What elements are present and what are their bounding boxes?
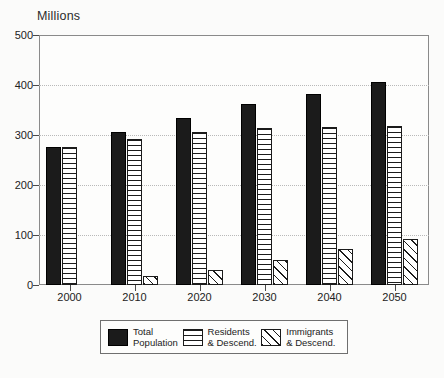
bar-group xyxy=(306,35,353,285)
bar-residents-descend xyxy=(192,132,207,285)
x-tick-mark xyxy=(330,285,331,291)
bar-immigrants-descend xyxy=(208,270,223,285)
legend-item-residents: Residents & Descend. xyxy=(183,326,262,348)
bars-layer xyxy=(39,35,429,285)
bar-total-population xyxy=(176,118,191,285)
y-tick-label: 0 xyxy=(3,279,33,291)
x-tick-label: 2040 xyxy=(317,291,341,303)
diagonal-hatch-swatch-icon xyxy=(261,329,281,346)
bar-residents-descend xyxy=(127,139,142,285)
legend-item-immigrants: Immigrants & Descend. xyxy=(261,326,340,348)
bar-residents-descend xyxy=(387,126,402,285)
bar-immigrants-descend xyxy=(403,239,418,285)
x-tick-mark xyxy=(265,285,266,291)
y-tick-label: 200 xyxy=(3,179,33,191)
legend-item-label: Residents & Descend. xyxy=(208,326,257,348)
y-tick-label: 100 xyxy=(3,229,33,241)
y-axis-unit-title: Millions xyxy=(37,9,80,23)
horizontal-stripes-swatch-icon xyxy=(183,329,203,346)
y-axis: 0100200300400500 xyxy=(0,0,33,378)
bar-total-population xyxy=(241,104,256,285)
bar-residents-descend xyxy=(257,128,272,285)
legend-item-total-population: Total Population xyxy=(108,326,183,348)
bar-residents-descend xyxy=(62,147,77,285)
x-tick-mark xyxy=(70,285,71,291)
x-tick-mark xyxy=(135,285,136,291)
y-tick-label: 300 xyxy=(3,129,33,141)
bar-total-population xyxy=(306,94,321,285)
bar-immigrants-descend xyxy=(273,260,288,285)
y-tick-mark xyxy=(33,285,39,286)
bar-group xyxy=(46,35,93,285)
bar-immigrants-descend xyxy=(338,249,353,285)
solid-black-swatch-icon xyxy=(108,329,128,346)
y-tick-label: 500 xyxy=(3,29,33,41)
y-tick-label: 400 xyxy=(3,79,33,91)
x-tick-mark xyxy=(395,285,396,291)
x-tick-mark xyxy=(200,285,201,291)
bar-group xyxy=(371,35,418,285)
x-tick-label: 2020 xyxy=(187,291,211,303)
bar-total-population xyxy=(111,132,126,285)
bar-residents-descend xyxy=(322,127,337,285)
x-tick-label: 2000 xyxy=(57,291,81,303)
x-tick-label: 2050 xyxy=(382,291,406,303)
legend-item-label: Immigrants & Descend. xyxy=(286,326,335,348)
x-tick-label: 2030 xyxy=(252,291,276,303)
bar-group xyxy=(241,35,288,285)
x-axis: 200020102020203020402050 xyxy=(39,291,429,309)
chart-legend: Total Population Residents & Descend. Im… xyxy=(100,320,348,354)
bar-group xyxy=(111,35,158,285)
bar-immigrants-descend xyxy=(143,276,158,285)
x-tick-label: 2010 xyxy=(122,291,146,303)
bar-chart: Millions 0100200300400500 20002010202020… xyxy=(0,0,444,378)
bar-total-population xyxy=(46,147,61,285)
legend-item-label: Total Population xyxy=(133,326,178,348)
bar-group xyxy=(176,35,223,285)
bar-total-population xyxy=(371,82,386,285)
